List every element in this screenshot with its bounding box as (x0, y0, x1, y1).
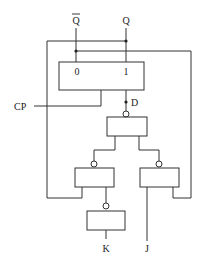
d-inverter-bubble (123, 111, 129, 117)
j-label: J (145, 243, 149, 254)
terminal-0-label: 0 (75, 66, 80, 77)
k-label: K (102, 243, 110, 254)
junction-dot-d (124, 100, 127, 103)
junction-dot-q (124, 39, 127, 42)
or-left-wire (94, 136, 115, 161)
left-and-bubble (91, 161, 97, 167)
right-and-bubble (156, 161, 162, 167)
qbar-feedback-wire (76, 51, 191, 198)
d-label: D (131, 97, 138, 108)
logic-circuit-diagram: Q Q 0 1 CP D K J (0, 0, 202, 262)
k-inverter-block (87, 211, 125, 230)
q-label: Q (122, 15, 130, 26)
junction-dot-qbar (74, 49, 77, 52)
right-and-gate-block (140, 168, 179, 187)
clock-label: CP (14, 101, 27, 112)
flipflop-block (59, 62, 144, 90)
k-inverter-bubble (103, 203, 109, 209)
clock-wire (34, 90, 101, 106)
left-and-gate-block (75, 168, 114, 187)
or-right-wire (139, 136, 159, 161)
or-gate-block (107, 117, 147, 136)
qbar-label: Q (72, 15, 80, 26)
terminal-1-label: 1 (124, 66, 129, 77)
